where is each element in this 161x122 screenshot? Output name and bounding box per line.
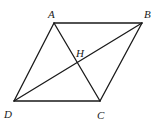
- diagonal-BD: [14, 23, 142, 101]
- label-D: D: [3, 108, 12, 120]
- labels: A B H D C: [3, 8, 151, 121]
- geometry-diagram: A B H D C: [0, 0, 161, 122]
- segments: [14, 23, 142, 101]
- label-C: C: [97, 109, 105, 121]
- label-A: A: [47, 8, 55, 20]
- label-B: B: [144, 8, 151, 20]
- segment-BC: [100, 23, 142, 101]
- label-H: H: [75, 47, 85, 59]
